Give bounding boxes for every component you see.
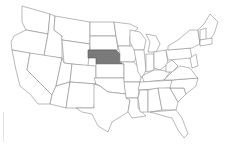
us-map [0, 0, 229, 147]
state-vt-nh[interactable] [200, 28, 206, 40]
state-mi[interactable] [146, 34, 160, 52]
state-nm[interactable] [66, 82, 96, 108]
state-wy[interactable] [62, 40, 90, 66]
state-wi[interactable] [130, 30, 146, 50]
state-co[interactable] [70, 64, 96, 84]
state-sd[interactable] [90, 36, 118, 50]
state-ny[interactable] [168, 30, 200, 50]
state-ar[interactable] [124, 82, 140, 98]
state-outlines [11, 6, 218, 138]
state-nebraska-highlighted[interactable] [88, 50, 122, 64]
state-in[interactable] [146, 54, 154, 72]
state-fl[interactable] [150, 110, 188, 138]
state-ks[interactable] [96, 64, 124, 78]
divider-line [3, 112, 4, 142]
state-ms[interactable] [138, 90, 148, 112]
state-nd[interactable] [90, 22, 116, 36]
